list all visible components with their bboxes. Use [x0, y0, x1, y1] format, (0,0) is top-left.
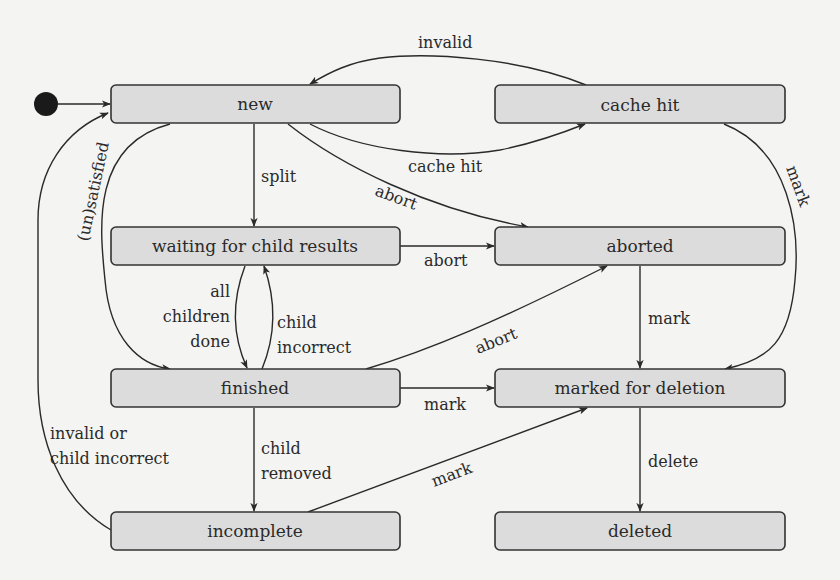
state-cache-hit: cache hit	[495, 85, 785, 123]
state-deleted: deleted	[495, 512, 785, 550]
label-child-incorrect-3: child incorrect	[50, 449, 170, 468]
label-children: children	[163, 307, 230, 326]
state-finished: finished	[111, 369, 400, 407]
label-split: split	[261, 167, 297, 186]
label-delete: delete	[648, 452, 698, 471]
state-new-label: new	[237, 94, 273, 114]
state-aborted: aborted	[495, 227, 785, 265]
state-aborted-label: aborted	[606, 236, 673, 256]
label-abort-waiting: abort	[424, 251, 468, 270]
label-done: done	[190, 332, 230, 351]
state-waiting-label: waiting for child results	[152, 236, 358, 256]
label-mark-finished: mark	[424, 395, 466, 414]
state-deleted-label: deleted	[608, 521, 672, 541]
state-incomplete: incomplete	[111, 512, 400, 550]
label-mark-aborted: mark	[648, 309, 690, 328]
state-incomplete-label: incomplete	[207, 521, 303, 541]
state-diagram: invalid cache hit split abort abort abor…	[0, 0, 840, 580]
state-finished-label: finished	[221, 378, 289, 398]
state-marked-for-deletion: marked for deletion	[495, 369, 785, 407]
label-child-incorrect-1: child	[277, 313, 317, 332]
label-cache-hit: cache hit	[408, 157, 483, 176]
label-child-removed-1: child	[261, 439, 301, 458]
label-child-incorrect-2: incorrect	[277, 338, 352, 357]
label-all: all	[210, 282, 230, 301]
label-child-removed-2: removed	[261, 464, 332, 483]
label-invalid-or: invalid or	[50, 424, 127, 443]
initial-state-dot	[34, 92, 58, 116]
state-new: new	[111, 85, 400, 123]
state-marked-label: marked for deletion	[555, 378, 726, 398]
label-invalid: invalid	[418, 33, 472, 52]
state-cache-hit-label: cache hit	[601, 95, 680, 115]
state-waiting: waiting for child results	[111, 227, 400, 265]
